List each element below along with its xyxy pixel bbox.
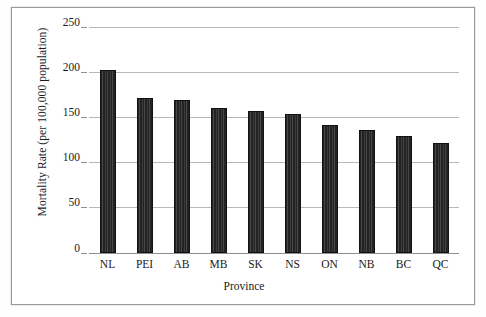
figure-root: Mortality Rate (per 100,000 population) …: [0, 0, 486, 317]
x-tick-label-bc: BC: [385, 258, 422, 270]
y-tick-mark-50: [81, 207, 87, 208]
x-tick-label-nb: NB: [348, 258, 385, 270]
bar-slot: [89, 27, 126, 253]
bar-slot: [311, 27, 348, 253]
y-tick-mark-250: [81, 27, 87, 28]
bar-bc[interactable]: [396, 136, 412, 253]
bar-slot: [200, 27, 237, 253]
bar-nb[interactable]: [359, 130, 375, 253]
y-tick-label-150: 150: [30, 112, 80, 113]
bar-sk[interactable]: [248, 111, 264, 253]
y-tick-label-200: 200: [30, 67, 80, 68]
bar-mb[interactable]: [211, 108, 227, 253]
x-tick-label-mb: MB: [200, 258, 237, 270]
x-tick-label-ab: AB: [163, 258, 200, 270]
bar-slot: [126, 27, 163, 253]
x-tick-label-ns: NS: [274, 258, 311, 270]
bar-slot: [422, 27, 459, 253]
y-axis-title: Mortality Rate (per 100,000 population): [36, 10, 48, 234]
y-tick-label-250: 250: [30, 22, 80, 23]
x-tick-label-nl: NL: [89, 258, 126, 270]
y-tick-mark-200: [81, 72, 87, 73]
y-tick-mark-100: [81, 162, 87, 163]
bar-qc[interactable]: [433, 143, 449, 253]
x-tick-label-pei: PEI: [126, 258, 163, 270]
x-tick-label-on: ON: [311, 258, 348, 270]
y-tick-mark-150: [81, 117, 87, 118]
y-tick-label-100: 100: [30, 157, 80, 158]
bar-nl[interactable]: [100, 70, 116, 253]
y-tick-label-0: 0: [30, 248, 80, 249]
y-tick-mark-0: [81, 253, 87, 254]
bar-slot: [274, 27, 311, 253]
x-tick-label-qc: QC: [422, 258, 459, 270]
bar-slot: [237, 27, 274, 253]
bar-pei[interactable]: [137, 98, 153, 253]
bar-slot: [163, 27, 200, 253]
y-tick-label-50: 50: [30, 202, 80, 203]
x-tick-label-sk: SK: [237, 258, 274, 270]
bar-ab[interactable]: [174, 100, 190, 253]
bar-ns[interactable]: [285, 114, 301, 253]
plot-area: 050100150200250 NLPEIABMBSKNSONNBBCQC: [89, 27, 459, 253]
bar-slot: [348, 27, 385, 253]
bar-on[interactable]: [322, 125, 338, 253]
chart-frame: Mortality Rate (per 100,000 population) …: [11, 7, 475, 305]
x-axis-title: Province: [12, 280, 476, 292]
bars-layer: [89, 27, 459, 253]
bar-slot: [385, 27, 422, 253]
